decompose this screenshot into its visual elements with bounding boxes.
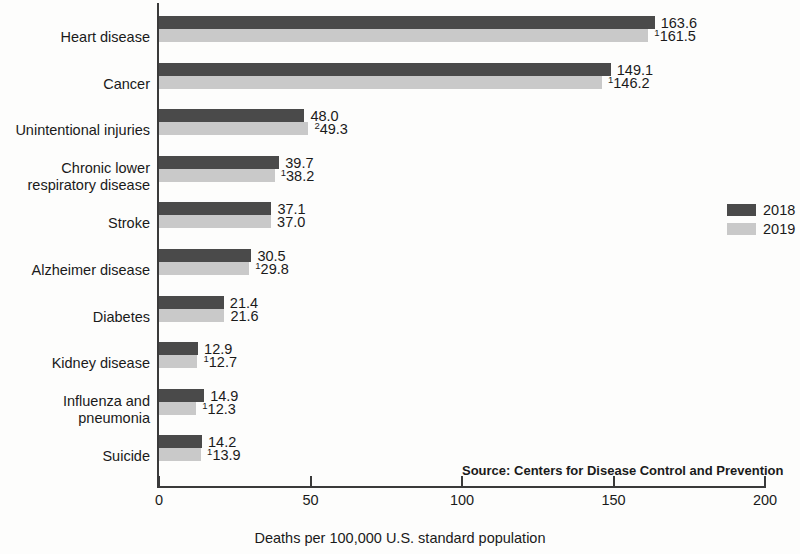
legend: 2018 2019 — [727, 200, 795, 238]
legend-swatch-2018 — [727, 204, 756, 216]
bar-row: Stroke37.137.0 — [0, 202, 800, 228]
legend-swatch-2019 — [727, 223, 756, 235]
bar-row: Heart disease163.61161.5 — [0, 16, 800, 42]
category-label: Cancer — [103, 76, 150, 93]
bar-row: Cancer149.11146.2 — [0, 63, 800, 89]
bar-2019 — [159, 215, 271, 228]
bar-2019 — [159, 262, 249, 275]
bar-2018 — [159, 156, 279, 169]
bar-value-label: 112.7 — [203, 356, 237, 370]
category-label: Heart disease — [61, 29, 150, 46]
bar-value-label: 1146.2 — [608, 77, 650, 91]
bar-row: Unintentional injuries48.0249.3 — [0, 109, 800, 135]
category-label: Kidney disease — [52, 355, 150, 372]
bar-row: Kidney disease12.9112.7 — [0, 342, 800, 368]
bar-row: Diabetes21.421.6 — [0, 296, 800, 322]
x-axis-title: Deaths per 100,000 U.S. standard populat… — [0, 530, 800, 546]
x-tick-50 — [310, 476, 312, 488]
category-label: Stroke — [108, 215, 150, 232]
x-tick-label-100: 100 — [450, 492, 474, 508]
bar-2018 — [159, 63, 611, 76]
bar-value-label: 113.9 — [207, 449, 241, 463]
bar-2018 — [159, 296, 224, 309]
bar-2019 — [159, 76, 602, 89]
category-label: Suicide — [102, 448, 150, 465]
x-tick-label-50: 50 — [302, 492, 318, 508]
legend-item-2019: 2019 — [727, 219, 795, 238]
bar-row: Influenza and pneumonia14.9112.3 — [0, 389, 800, 415]
legend-label-2019: 2019 — [763, 221, 795, 237]
bar-2019 — [159, 122, 308, 135]
category-label: Unintentional injuries — [15, 122, 150, 139]
bar-chart: 050100150200 Heart disease163.61161.5Can… — [0, 0, 800, 554]
category-label: Chronic lower respiratory disease — [28, 160, 151, 194]
bar-value-label: 37.0 — [277, 216, 305, 229]
source-note: Source: Centers for Disease Control and … — [462, 463, 783, 478]
x-tick-label-150: 150 — [601, 492, 625, 508]
bar-2019 — [159, 29, 648, 42]
category-label: Alzheimer disease — [32, 262, 150, 279]
legend-label-2018: 2018 — [763, 202, 795, 218]
bar-row: Chronic lower respiratory disease39.7138… — [0, 156, 800, 182]
bar-2018 — [159, 249, 251, 262]
bar-row: Alzheimer disease30.5129.8 — [0, 249, 800, 275]
bar-value-label: 21.6 — [230, 310, 258, 323]
bar-2019 — [159, 355, 197, 368]
bar-2019 — [159, 309, 224, 322]
bar-value-label: 249.3 — [314, 123, 348, 137]
bar-value-label: 112.3 — [202, 403, 236, 417]
legend-item-2018: 2018 — [727, 200, 795, 219]
category-label: Diabetes — [93, 309, 150, 326]
bar-2019 — [159, 448, 201, 461]
bar-row: Suicide14.2113.9 — [0, 435, 800, 461]
category-label: Influenza and pneumonia — [63, 393, 150, 427]
bar-2018 — [159, 16, 655, 29]
bar-2018 — [159, 342, 198, 355]
bar-2018 — [159, 109, 304, 122]
bar-value-label: 138.2 — [281, 170, 315, 184]
x-tick-label-0: 0 — [155, 492, 163, 508]
bar-2018 — [159, 389, 204, 402]
bar-value-label: 1161.5 — [654, 30, 696, 44]
x-tick-label-200: 200 — [753, 492, 777, 508]
bar-2018 — [159, 202, 271, 215]
bar-value-label: 129.8 — [255, 263, 289, 277]
bar-2019 — [159, 169, 275, 182]
bar-2019 — [159, 402, 196, 415]
bar-2018 — [159, 435, 202, 448]
x-tick-0 — [158, 476, 160, 488]
